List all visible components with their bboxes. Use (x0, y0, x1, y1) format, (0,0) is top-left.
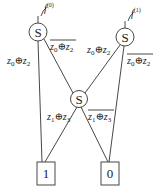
terminal-0: 0 (101, 162, 119, 185)
svg-text:S: S (75, 92, 82, 107)
decision-diagram: f(0) f(1) z0⊕z2 z0⊕z2 z0⊕z2 z0⊕z2 z1⊕z3 … (0, 0, 160, 193)
edge-sright-term0 (109, 46, 124, 162)
edge-label-smid-term1: z1⊕z3 (46, 111, 71, 124)
node-s-right: S (116, 28, 134, 46)
edge-label-sleft-term1: z0⊕z2 (6, 55, 31, 68)
svg-text:S: S (121, 30, 128, 45)
svg-text:z0⊕z2: z0⊕z2 (126, 55, 151, 68)
root-f0: f(0) (38, 2, 54, 23)
svg-text:0: 0 (107, 166, 114, 181)
edge-sleft-term1 (38, 41, 42, 162)
svg-text:z1⊕z3: z1⊕z3 (87, 111, 112, 124)
svg-text:S: S (34, 25, 41, 40)
node-s-left: S (29, 23, 47, 41)
edge-label-sright-smid: z0⊕z2 (86, 44, 111, 57)
node-s-mid: S (71, 91, 88, 108)
root-f1: f(1) (125, 7, 141, 28)
svg-text:z0⊕z2: z0⊕z2 (49, 41, 74, 54)
root-label-f1: f(1) (131, 7, 141, 19)
terminal-1: 1 (37, 162, 55, 185)
root-label-f0: f(0) (44, 2, 54, 14)
svg-text:1: 1 (43, 166, 50, 181)
edge-label-sright-term0: z0⊕z2 (126, 54, 153, 68)
edge-label-smid-term0: z1⊕z3 (87, 110, 114, 124)
edge-label-sleft-smid: z0⊕z2 (49, 40, 76, 54)
